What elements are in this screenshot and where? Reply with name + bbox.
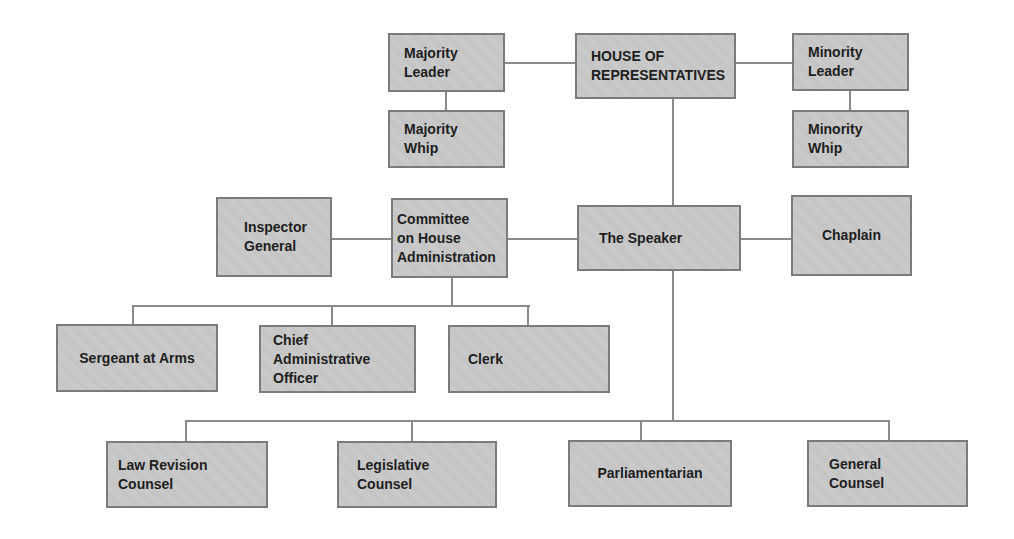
connector-house-minority: [736, 62, 792, 64]
node-clerk: Clerk: [448, 325, 610, 393]
connector-speaker-chaplain: [741, 238, 791, 240]
connector-committee-speaker: [508, 238, 577, 240]
connector-house-speaker: [672, 99, 674, 205]
connector-speaker-branch: [185, 420, 890, 422]
node-sergeant-at-arms: Sergeant at Arms: [56, 324, 218, 392]
node-chief-administrative-officer: Chief Administrative Officer: [259, 325, 416, 393]
node-legislative-counsel: Legislative Counsel: [337, 441, 497, 508]
node-law-revision-counsel: Law Revision Counsel: [106, 441, 268, 508]
connector-inspector-committee: [332, 238, 391, 240]
connector-to-clerk: [527, 305, 529, 325]
node-majority-leader: Majority Leader: [388, 33, 505, 92]
node-general-counsel: General Counsel: [807, 440, 968, 507]
connector-committee-down: [451, 278, 453, 306]
node-the-speaker: The Speaker: [577, 205, 741, 271]
node-minority-leader: Minority Leader: [792, 33, 909, 91]
node-majority-whip: Majority Whip: [388, 110, 505, 168]
node-chaplain: Chaplain: [791, 195, 912, 276]
connector-to-sergeant: [132, 305, 134, 324]
node-minority-whip: Minority Whip: [792, 110, 909, 168]
org-chart: Majority Leader HOUSE OF REPRESENTATIVES…: [0, 0, 1014, 539]
connector-minority-leader-whip: [849, 91, 851, 110]
node-house-of-representatives: HOUSE OF REPRESENTATIVES: [575, 33, 736, 99]
connector-to-general-counsel: [888, 420, 890, 440]
node-parliamentarian: Parliamentarian: [568, 440, 732, 507]
connector-to-legislative: [411, 420, 413, 441]
connector-to-parliamentarian: [640, 420, 642, 440]
connector-to-law-revision: [185, 420, 187, 441]
connector-speaker-down: [672, 271, 674, 421]
connector-majority-house: [505, 62, 575, 64]
connector-majority-leader-whip: [445, 92, 447, 110]
node-committee-on-house-administration: Committee on House Administration: [391, 198, 508, 278]
connector-to-cao: [331, 305, 333, 325]
node-inspector-general: Inspector General: [216, 197, 332, 277]
